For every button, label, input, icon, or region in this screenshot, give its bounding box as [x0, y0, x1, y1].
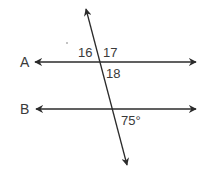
angle-18-label: 18: [106, 67, 120, 80]
stray-dot: [66, 42, 68, 44]
transversal: [86, 9, 127, 165]
line-a-label: A: [20, 56, 29, 69]
parallel-lines-diagram: [0, 0, 210, 174]
angle-75-label: 75°: [121, 114, 141, 127]
line-b-label: B: [20, 103, 29, 116]
angle-16-label: 16: [78, 46, 92, 59]
angle-17-label: 17: [103, 46, 117, 59]
